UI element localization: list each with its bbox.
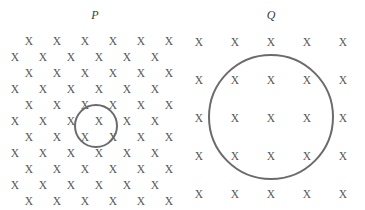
field-mark-into-page: X (339, 36, 348, 48)
field-mark-into-page: X (95, 147, 104, 159)
field-mark-into-page: X (11, 83, 20, 95)
field-mark-into-page: X (303, 112, 312, 124)
figure-root: P XXXXXXXXXXXXXXXXXXXXXXXXXXXXXXXXXXXXXX… (0, 0, 365, 210)
field-mark-into-page: X (165, 99, 174, 111)
field-mark-into-page: X (95, 51, 104, 63)
field-mark-into-page: X (137, 35, 146, 47)
field-mark-into-page: X (67, 179, 76, 191)
field-mark-into-page: X (123, 147, 132, 159)
field-mark-into-page: X (123, 179, 132, 191)
field-mark-into-page: X (25, 131, 34, 143)
field-mark-into-page: X (53, 99, 62, 111)
field-mark-into-page: X (67, 51, 76, 63)
field-mark-into-page: X (137, 67, 146, 79)
field-mark-into-page: X (123, 115, 132, 127)
field-mark-into-page: X (267, 74, 276, 86)
field-mark-into-page: X (109, 67, 118, 79)
field-mark-into-page: X (53, 131, 62, 143)
field-mark-into-page: X (303, 74, 312, 86)
field-mark-into-page: X (165, 67, 174, 79)
field-mark-into-page: X (11, 115, 20, 127)
field-mark-into-page: X (11, 179, 20, 191)
field-mark-into-page: X (267, 150, 276, 162)
field-mark-into-page: X (339, 188, 348, 200)
field-mark-into-page: X (151, 179, 160, 191)
field-mark-into-page: X (195, 112, 204, 124)
field-mark-into-page: X (39, 115, 48, 127)
field-mark-into-page: X (231, 36, 240, 48)
field-mark-into-page: X (39, 83, 48, 95)
panel-q-field-marks: XXXXXXXXXXXXXXXXXXXXXXXXX (195, 36, 348, 200)
field-mark-into-page: X (25, 195, 34, 207)
field-mark-into-page: X (151, 51, 160, 63)
field-mark-into-page: X (267, 112, 276, 124)
field-mark-into-page: X (11, 51, 20, 63)
panel-p-field-marks: XXXXXXXXXXXXXXXXXXXXXXXXXXXXXXXXXXXXXXXX… (11, 35, 174, 207)
panel-p: P XXXXXXXXXXXXXXXXXXXXXXXXXXXXXXXXXXXXXX… (11, 8, 174, 207)
field-mark-into-page: X (81, 195, 90, 207)
field-mark-into-page: X (53, 67, 62, 79)
field-mark-into-page: X (109, 195, 118, 207)
field-mark-into-page: X (95, 83, 104, 95)
field-mark-into-page: X (53, 35, 62, 47)
panel-q: Q XXXXXXXXXXXXXXXXXXXXXXXXX (195, 8, 348, 200)
field-diagram-svg: P XXXXXXXXXXXXXXXXXXXXXXXXXXXXXXXXXXXXXX… (0, 0, 365, 210)
field-mark-into-page: X (231, 74, 240, 86)
field-mark-into-page: X (303, 150, 312, 162)
field-mark-into-page: X (231, 150, 240, 162)
field-mark-into-page: X (151, 83, 160, 95)
field-mark-into-page: X (231, 112, 240, 124)
field-mark-into-page: X (67, 83, 76, 95)
field-mark-into-page: X (39, 147, 48, 159)
field-mark-into-page: X (67, 147, 76, 159)
field-mark-into-page: X (39, 51, 48, 63)
field-mark-into-page: X (151, 147, 160, 159)
field-mark-into-page: X (195, 36, 204, 48)
panel-q-label: Q (267, 8, 276, 22)
field-mark-into-page: X (267, 36, 276, 48)
field-mark-into-page: X (195, 150, 204, 162)
field-mark-into-page: X (109, 163, 118, 175)
panel-p-label: P (90, 8, 99, 22)
field-mark-into-page: X (81, 67, 90, 79)
field-mark-into-page: X (165, 131, 174, 143)
field-mark-into-page: X (95, 115, 104, 127)
field-mark-into-page: X (303, 36, 312, 48)
field-mark-into-page: X (81, 35, 90, 47)
field-mark-into-page: X (339, 112, 348, 124)
field-mark-into-page: X (95, 179, 104, 191)
field-mark-into-page: X (81, 163, 90, 175)
field-mark-into-page: X (195, 188, 204, 200)
field-mark-into-page: X (339, 74, 348, 86)
field-mark-into-page: X (11, 147, 20, 159)
field-mark-into-page: X (25, 67, 34, 79)
field-mark-into-page: X (137, 195, 146, 207)
field-mark-into-page: X (25, 35, 34, 47)
field-mark-into-page: X (231, 188, 240, 200)
field-mark-into-page: X (123, 83, 132, 95)
field-mark-into-page: X (109, 35, 118, 47)
field-mark-into-page: X (165, 163, 174, 175)
field-mark-into-page: X (339, 150, 348, 162)
field-mark-into-page: X (267, 188, 276, 200)
field-mark-into-page: X (151, 115, 160, 127)
field-mark-into-page: X (137, 163, 146, 175)
field-mark-into-page: X (39, 179, 48, 191)
field-mark-into-page: X (165, 195, 174, 207)
field-mark-into-page: X (303, 188, 312, 200)
field-mark-into-page: X (195, 74, 204, 86)
field-mark-into-page: X (53, 195, 62, 207)
field-mark-into-page: X (123, 51, 132, 63)
field-mark-into-page: X (25, 99, 34, 111)
field-mark-into-page: X (25, 163, 34, 175)
field-mark-into-page: X (165, 35, 174, 47)
field-mark-into-page: X (53, 163, 62, 175)
field-mark-into-page: X (137, 99, 146, 111)
field-mark-into-page: X (137, 131, 146, 143)
